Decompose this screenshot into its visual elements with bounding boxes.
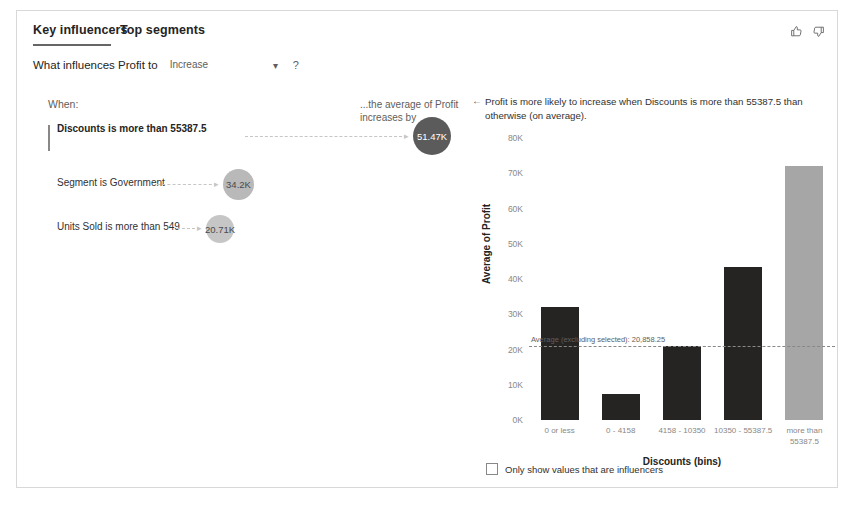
analysis-type-select[interactable]: Increase	[167, 56, 267, 75]
y-axis-tick-label: 30K	[495, 309, 523, 319]
thumbs-down-icon[interactable]	[812, 25, 825, 38]
thumbs-up-icon[interactable]	[790, 25, 803, 38]
analysis-question-row: What influences Profit to Increase ▾ ?	[33, 54, 299, 76]
x-axis-tick-label: more than 55387.5	[774, 426, 835, 447]
plot-area: Average (excluding selected): 20,858.25	[529, 138, 835, 420]
connector-arrow-icon: ▸	[404, 132, 409, 141]
chevron-down-icon[interactable]: ▾	[267, 60, 285, 71]
tab-key-influencers[interactable]: Key influencers	[33, 23, 128, 37]
arrow-left-icon[interactable]: ←	[472, 95, 482, 106]
influencer-row[interactable]: Units Sold is more than 549 ▸ 20.71K	[17, 219, 469, 271]
question-mark-icon[interactable]: ?	[293, 59, 299, 71]
x-axis-tick-label: 10350 - 55387.5	[713, 426, 774, 437]
bar[interactable]	[724, 267, 762, 420]
connector-line	[245, 136, 407, 137]
average-reference-line	[529, 346, 835, 347]
y-axis-tick-label: 60K	[495, 204, 523, 214]
x-axis-tick-label: 4158 - 10350	[651, 426, 712, 437]
tab-top-segments[interactable]: Top segments	[120, 23, 205, 37]
key-influencers-visual: Key influencers Top segments What influe…	[16, 10, 838, 488]
y-axis-tick-label: 20K	[495, 345, 523, 355]
x-axis-tick-label: 0 - 4158	[590, 426, 651, 437]
x-axis-tick-label: 0 or less	[529, 426, 590, 437]
tab-active-underline	[33, 44, 111, 46]
feedback-controls	[790, 25, 825, 38]
influencer-bubble[interactable]: 20.71K	[206, 215, 234, 243]
influencer-bubble[interactable]: 34.2K	[223, 169, 254, 200]
y-axis-tick-label: 40K	[495, 274, 523, 284]
connector-arrow-icon: ▸	[197, 224, 202, 233]
influencers-pane: When: ...the average of Profit increases…	[17, 83, 469, 487]
bar[interactable]	[663, 346, 701, 420]
only-influencers-filter[interactable]: Only show values that are influencers	[486, 463, 663, 475]
influencer-row[interactable]: Discounts is more than 55387.5 ▸ 51.47K	[17, 121, 469, 173]
tab-strip: Key influencers Top segments	[17, 11, 837, 47]
average-reference-label: Average (excluding selected): 20,858.25	[531, 335, 665, 344]
only-influencers-label: Only show values that are influencers	[505, 464, 663, 475]
y-axis-tick-label: 70K	[495, 168, 523, 178]
y-axis-tick-label: 0K	[495, 415, 523, 425]
connector-line	[157, 184, 217, 185]
detail-chart-pane: ← Profit is more likely to increase when…	[469, 83, 837, 487]
y-axis-tick-label: 10K	[495, 380, 523, 390]
influencer-label: Discounts is more than 55387.5	[57, 123, 247, 136]
influencer-bubble[interactable]: 51.47K	[413, 117, 451, 155]
y-axis-tick-label: 80K	[495, 133, 523, 143]
bar[interactable]	[541, 307, 579, 420]
bar[interactable]	[785, 166, 823, 420]
connector-arrow-icon: ▸	[214, 180, 219, 189]
question-label: What influences Profit to	[33, 59, 158, 71]
insight-text: Profit is more likely to increase when D…	[485, 95, 815, 122]
only-influencers-checkbox[interactable]	[486, 463, 498, 475]
y-axis-title: Average of Profit	[481, 204, 492, 284]
when-label: When:	[48, 98, 78, 110]
y-axis-tick-label: 50K	[495, 239, 523, 249]
bar[interactable]	[602, 394, 640, 420]
selected-influencer-marker	[48, 125, 50, 151]
average-profit-bar-chart: Average of Profit 0K10K20K30K40K50K60K70…	[483, 138, 838, 488]
